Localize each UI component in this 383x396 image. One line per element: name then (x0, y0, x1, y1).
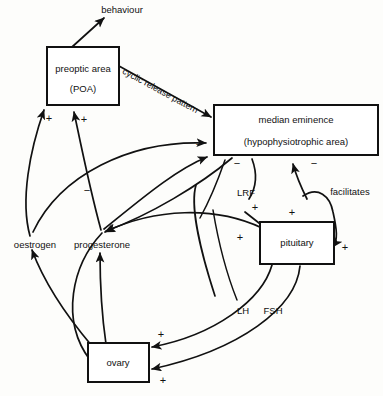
node-ovary-label: ovary (106, 357, 129, 368)
sign-poa-progesterone: + (81, 113, 87, 125)
sign-pituitary-facilitates: + (342, 241, 348, 253)
edge-ovary-long-feedback-arc (194, 185, 215, 296)
label-progesterone: progesterone (74, 239, 130, 250)
edge-pituitary-to-ovary-lh (152, 265, 272, 347)
sign-median-eminence-under-right: − (311, 157, 317, 169)
sign-median-eminence-left: − (196, 138, 202, 150)
edge-lh-feedback-upstroke (213, 210, 237, 300)
edge-ovary-to-progesterone (100, 253, 106, 344)
sign-median-eminence-under-left: − (234, 157, 240, 169)
node-preoptic-area[interactable] (47, 47, 119, 105)
node-median-eminence[interactable] (214, 105, 378, 155)
label-lrf: LRF (237, 187, 255, 198)
sign-poa-oestrogen: + (46, 112, 52, 124)
edge-poa-to-behaviour (72, 18, 104, 47)
node-median-eminence-label-line1: median eminence (259, 114, 334, 125)
label-cyclic-release-pattern: cyclic release pattern (121, 66, 200, 115)
edge-progesterone-to-median-eminence (104, 157, 207, 229)
sign-ovary-fsh: + (160, 374, 166, 386)
node-preoptic-area-label-line1: preoptic area (55, 63, 111, 74)
edge-progesterone-to-poa (74, 112, 101, 230)
sign-ovary-lh: + (158, 328, 164, 340)
edge-pituitary-to-ovary-fsh (152, 266, 300, 369)
label-behaviour: behaviour (101, 4, 143, 15)
edge-ovary-to-oestrogen (32, 250, 92, 346)
label-oestrogen: oestrogen (14, 239, 56, 250)
label-facilitates: facilitates (330, 186, 370, 197)
sign-pituitary-lrf: + (289, 206, 295, 218)
edge-median-eminence-to-progesterone (106, 158, 232, 231)
node-median-eminence-label-line2: (hypophysiotrophic area) (244, 136, 349, 147)
edge-pituitary-to-progesterone (105, 213, 262, 232)
sign-pituitary-upper-left: + (252, 201, 258, 213)
edge-facilitates-to-median-eminence (293, 164, 307, 199)
label-fsh: FSH (264, 305, 283, 316)
sign-mid-left-negative: − (84, 184, 90, 196)
label-lh: LH (237, 305, 249, 316)
node-preoptic-area-label-line2: (POA) (70, 83, 96, 94)
node-pituitary-label: pituitary (280, 237, 314, 248)
diagram-svg: preoptic area (POA) median eminence (hyp… (0, 0, 383, 396)
diagram-canvas: preoptic area (POA) median eminence (hyp… (0, 0, 383, 396)
edge-median-eminence-downstroke-left (200, 160, 225, 218)
edge-oestrogen-to-median-eminence (33, 143, 206, 232)
sign-pituitary-left: + (237, 231, 243, 243)
